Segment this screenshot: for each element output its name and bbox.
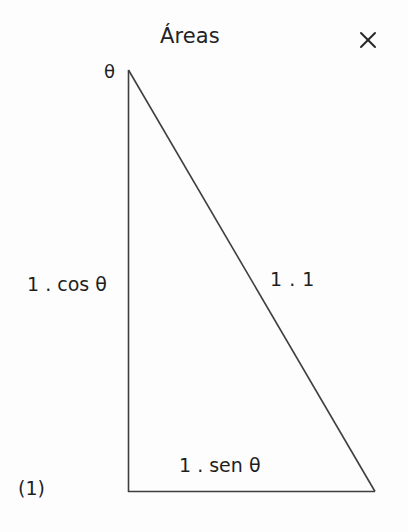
right-triangle-figure: θ 1 . cos θ 1 . 1 1 . sen θ (1) [0,0,408,532]
figure-index-label: (1) [18,477,45,499]
figure-window: Áreas θ 1 . cos θ 1 . 1 1 . sen θ (1) [0,0,408,532]
triangle-drawing [0,0,408,532]
opposite-side-label: 1 . sen θ [179,454,261,476]
adjacent-side-label: 1 . cos θ [27,273,107,295]
hypotenuse-label: 1 . 1 [270,268,315,290]
apex-angle-label: θ [104,61,115,83]
triangle-hypotenuse [129,70,376,492]
